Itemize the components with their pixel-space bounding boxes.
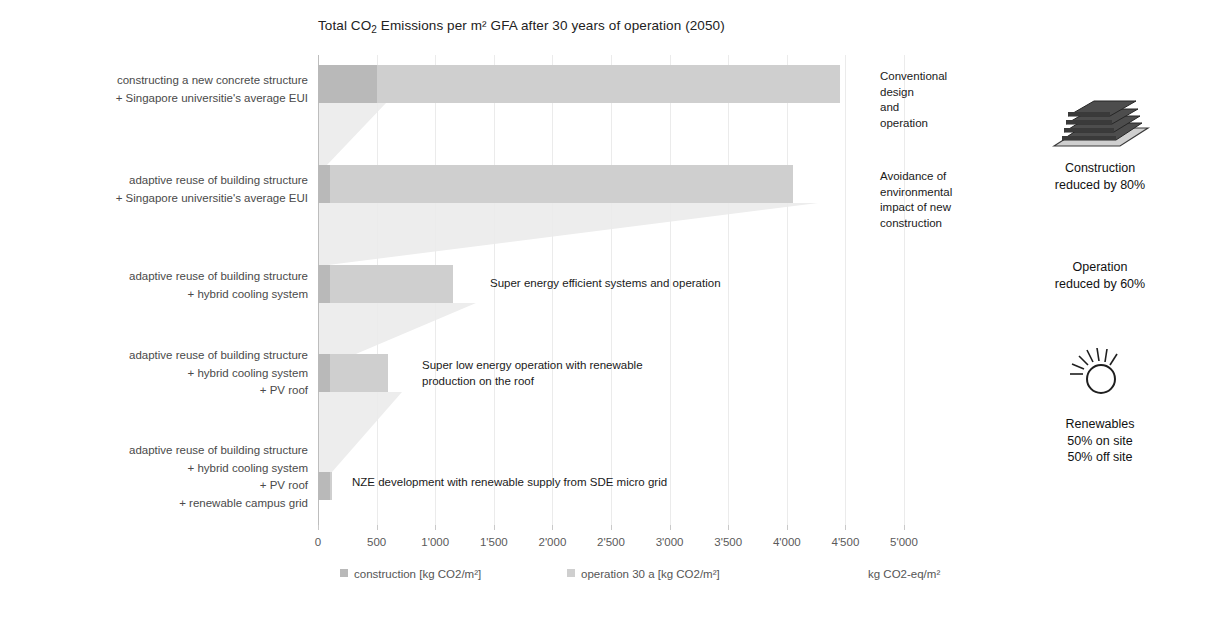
bar-segment-operation-3[interactable] <box>330 265 453 303</box>
bar-segment-operation-5[interactable] <box>330 472 332 500</box>
tick-1500 <box>494 525 495 530</box>
bar-segment-construction-5[interactable] <box>318 472 330 500</box>
tick-label-500: 500 <box>367 536 386 548</box>
tick-4500 <box>845 525 846 530</box>
legend-item-operation[interactable]: operation 30 a [kg CO2/m²] <box>567 568 720 580</box>
legend-swatch-operation <box>567 569 575 577</box>
legend-label-construction: construction [kg CO2/m²] <box>354 568 481 580</box>
tick-label-4500: 4'500 <box>832 536 860 548</box>
chart-title: Total CO2 Emissions per m² GFA after 30 … <box>318 18 725 33</box>
bar-annotation-5: NZE development with renewable supply fr… <box>352 475 667 491</box>
category-label-3: adaptive reuse of building structure + h… <box>40 268 308 303</box>
bar-segment-construction-1[interactable] <box>318 65 377 103</box>
category-label-1: constructing a new concrete structure + … <box>40 72 308 107</box>
bar-annotation-1: Conventional design and operation <box>880 69 947 131</box>
tick-label-0: 0 <box>315 536 321 548</box>
side-block-operation: Operation reduced by 60% <box>1010 259 1190 292</box>
tick-label-5000: 5'000 <box>890 536 918 548</box>
x-axis-caption: kg CO2-eq/m² <box>868 568 940 580</box>
sun-icon <box>1068 348 1130 404</box>
bar-annotation-2: Avoidance of environmental impact of new… <box>880 169 952 231</box>
tick-label-2000: 2'000 <box>539 536 567 548</box>
funnel-connector-4 <box>318 392 402 472</box>
chart-title-post: Emissions per m² GFA after 30 years of o… <box>377 18 725 33</box>
tick-500 <box>377 525 378 530</box>
legend-item-construction[interactable]: construction [kg CO2/m²] <box>340 568 481 580</box>
tick-2000 <box>552 525 553 530</box>
tick-2500 <box>611 525 612 530</box>
bar-segment-construction-3[interactable] <box>318 265 330 303</box>
layered-slabs-icon <box>1048 98 1152 160</box>
tick-label-4000: 4'000 <box>773 536 801 548</box>
gridline-4000 <box>787 55 788 525</box>
category-label-5: adaptive reuse of building structure + h… <box>40 442 308 512</box>
bar-segment-construction-2[interactable] <box>318 165 330 203</box>
tick-3000 <box>670 525 671 530</box>
bar-segment-construction-4[interactable] <box>318 354 330 392</box>
chart-title-subscript: 2 <box>371 24 377 35</box>
tick-label-3500: 3'500 <box>714 536 742 548</box>
chart-title-pre: Total CO <box>318 18 371 33</box>
tick-0 <box>318 525 319 530</box>
tick-label-1000: 1'000 <box>421 536 449 548</box>
gridline-4500 <box>845 55 846 525</box>
bar-segment-operation-2[interactable] <box>330 165 793 203</box>
category-label-2: adaptive reuse of building structure + S… <box>40 172 308 207</box>
tick-4000 <box>787 525 788 530</box>
plot-area: Conventional design and operation Avoida… <box>318 55 904 525</box>
funnel-connector-2 <box>318 203 818 265</box>
tick-3500 <box>728 525 729 530</box>
side-block-renewables: Renewables 50% on site 50% off site <box>1010 416 1190 466</box>
bar-segment-operation-4[interactable] <box>330 354 389 392</box>
gridline-3500 <box>728 55 729 525</box>
bar-annotation-3: Super energy efficient systems and opera… <box>490 276 721 292</box>
legend-label-operation: operation 30 a [kg CO2/m²] <box>581 568 720 580</box>
tick-1000 <box>435 525 436 530</box>
category-label-4: adaptive reuse of building structure + h… <box>40 347 308 400</box>
bar-segment-operation-1[interactable] <box>377 65 840 103</box>
tick-label-2500: 2'500 <box>597 536 625 548</box>
legend-swatch-construction <box>340 569 348 577</box>
tick-label-1500: 1'500 <box>480 536 508 548</box>
side-block-construction: Construction reduced by 80% <box>1010 160 1190 193</box>
tick-5000 <box>904 525 905 530</box>
tick-label-3000: 3'000 <box>656 536 684 548</box>
bar-annotation-4: Super low energy operation with renewabl… <box>422 358 643 389</box>
